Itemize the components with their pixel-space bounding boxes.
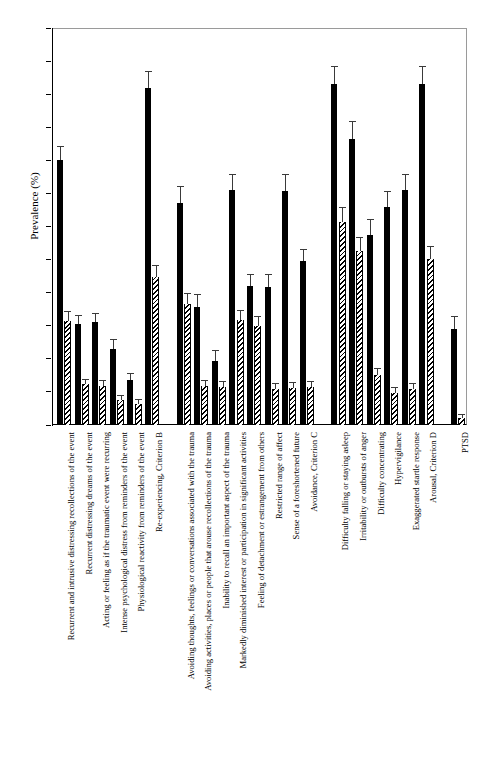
error-cap-solid (349, 121, 356, 122)
bar-solid (92, 322, 98, 425)
bar-solid (177, 203, 183, 425)
bar-solid (229, 190, 235, 425)
bar-hatched (152, 277, 159, 425)
error-cap-hatched (135, 399, 142, 400)
bar-solid (57, 160, 63, 425)
bar-hatched (272, 389, 279, 425)
y-axis-title: Prevalence (%) (28, 126, 40, 286)
error-cap-solid (145, 71, 152, 72)
error-bar-solid (387, 191, 388, 207)
x-axis-label: Avoiding activities, places or people th… (204, 432, 213, 691)
bar-solid (384, 207, 390, 425)
error-bar-solid (95, 313, 96, 323)
bar-hatched (117, 400, 124, 425)
error-cap-solid (75, 315, 82, 316)
bar-solid (282, 191, 288, 425)
error-cap-hatched (458, 414, 465, 415)
bar-hatched (64, 321, 71, 425)
y-tick-mark (46, 94, 51, 95)
bar-solid (145, 88, 151, 425)
error-cap-solid (384, 191, 391, 192)
x-axis-label: Irritability or outbursts of anger (359, 432, 368, 541)
bar-solid (331, 84, 337, 425)
x-axis-label: Hypervigilance (394, 432, 403, 485)
error-bar-solid (78, 315, 79, 324)
x-axis-label: Avoiding thoughts, feelings or conversat… (187, 432, 196, 679)
bar-hatched (135, 404, 142, 425)
error-cap-hatched (82, 379, 89, 380)
x-axis-label: Re-experiencing, Criterion B (155, 432, 164, 532)
error-bar-solid (130, 373, 131, 380)
y-axis-line (52, 28, 53, 426)
bar-solid (300, 261, 306, 425)
y-tick-mark (46, 358, 51, 359)
error-bar-hatched (156, 265, 157, 277)
error-bar-solid (370, 219, 371, 235)
y-tick-mark (46, 259, 51, 260)
error-bar-solid (60, 146, 61, 160)
bar-hatched (219, 387, 226, 425)
error-cap-solid (265, 274, 272, 275)
error-bar-hatched (430, 246, 431, 259)
x-axis-label: Restricted range of affect (275, 432, 284, 519)
error-bar-solid (334, 66, 335, 84)
error-cap-hatched (64, 311, 71, 312)
bar-solid (265, 287, 271, 425)
bar-hatched (289, 388, 296, 425)
x-axis-label: Inability to recall an important aspect … (222, 432, 231, 609)
error-cap-solid (110, 339, 117, 340)
x-axis-label: Acting or feeling as if the traumatic ev… (102, 432, 111, 628)
error-cap-solid (282, 174, 289, 175)
bar-hatched (458, 418, 465, 425)
error-bar-solid (285, 174, 286, 191)
error-cap-solid (92, 313, 99, 314)
error-cap-hatched (307, 381, 314, 382)
error-cap-hatched (254, 316, 261, 317)
bar-solid (349, 139, 355, 425)
error-cap-hatched (117, 395, 124, 396)
error-bar-solid (268, 274, 269, 287)
x-axis-label: Sense of a foreshortened future (292, 432, 301, 539)
error-cap-hatched (201, 380, 208, 381)
x-axis-label: Intense psychological distress from remi… (120, 432, 129, 633)
error-cap-hatched (339, 207, 346, 208)
error-bar-hatched (377, 368, 378, 375)
error-cap-solid (451, 316, 458, 317)
y-tick-mark (46, 160, 51, 161)
error-cap-hatched (409, 383, 416, 384)
error-cap-solid (212, 350, 219, 351)
bar-hatched (184, 304, 191, 425)
error-cap-solid (127, 373, 134, 374)
error-cap-hatched (184, 293, 191, 294)
bar-hatched (237, 320, 244, 425)
error-cap-solid (331, 66, 338, 67)
y-tick-mark (46, 28, 51, 29)
error-bar-solid (215, 350, 216, 362)
x-axis-label: Recurrent distressing dreams of the even… (85, 432, 94, 574)
bar-solid (194, 307, 200, 425)
error-cap-hatched (374, 368, 381, 369)
error-cap-solid (194, 294, 201, 295)
bar-solid (75, 324, 81, 425)
bar-hatched (427, 259, 434, 425)
error-bar-hatched (240, 310, 241, 320)
error-bar-solid (250, 274, 251, 286)
error-bar-solid (422, 66, 423, 84)
x-axis-label: PTSD (461, 432, 470, 453)
error-cap-hatched (99, 380, 106, 381)
bar-solid (451, 329, 457, 425)
x-axis-label: Arousal, Criterion D (429, 432, 438, 503)
error-cap-hatched (219, 381, 226, 382)
y-tick-mark (46, 127, 51, 128)
error-bar-solid (405, 174, 406, 191)
x-axis-label: Exaggerated startle response (412, 432, 421, 530)
error-bar-hatched (187, 293, 188, 305)
y-tick-mark (46, 425, 51, 426)
error-cap-solid (229, 174, 236, 175)
y-tick-mark (46, 292, 51, 293)
x-axis-label: Difficulty falling or staying asleep (341, 432, 350, 550)
bar-hatched (409, 389, 416, 425)
error-bar-solid (148, 71, 149, 88)
error-bar-solid (232, 174, 233, 191)
error-cap-solid (402, 174, 409, 175)
